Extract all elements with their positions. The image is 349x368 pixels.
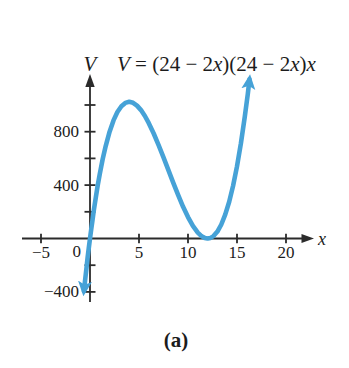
axes-group: −55101520 800400−400 [22,74,314,302]
equation-part: − 2 [263,52,291,76]
x-tick-label: 20 [278,243,295,262]
x-tick-label: −5 [32,243,50,262]
equation-part: = (24 [130,52,186,76]
equation-part: x [306,52,317,76]
equation-part: ) [300,52,307,76]
x-axis-arrowhead [302,234,315,243]
equation-part: − 2 [185,52,213,76]
equation-part: )(24 [222,52,262,76]
y-tick-label: −400 [44,282,79,301]
x-tick-label: 15 [229,243,246,262]
y-tick-label: 400 [54,176,80,195]
x-axis-title: x [317,229,326,249]
function-curve [84,79,250,291]
x-tick-label: 10 [180,243,197,262]
equation-label: V = (24 − 2x)(24 − 2x)x [117,52,317,76]
plot-canvas: −55101520 800400−400 V V = (24 − 2x)(24 … [0,0,349,368]
figure-volume-graph: −55101520 800400−400 V V = (24 − 2x)(24 … [0,0,349,368]
figure-caption: (a) [164,328,189,352]
y-tick-label: 800 [54,122,80,141]
x-tick-label: 5 [135,243,144,262]
y-axis-title: V [84,52,99,76]
origin-label: 0 [73,242,82,261]
